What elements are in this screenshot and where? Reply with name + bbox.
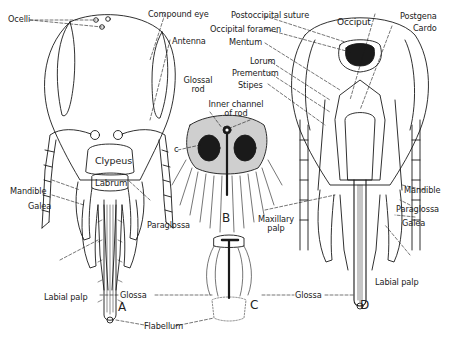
figure-label-c: C (250, 298, 258, 312)
figure-d-head (292, 18, 429, 309)
label-postoccipital-suture: Postoccipital suture (231, 11, 309, 20)
label-inner-channel-of-rod: Inner channel of rod (206, 100, 266, 118)
label-paraglossa-right: Paraglossa (396, 205, 439, 214)
label-galea-right: Galea (402, 219, 425, 228)
figure-a-head (42, 15, 175, 323)
anatomy-diagram: Ocelli Compound eye Antenna Clypeus Labr… (0, 0, 450, 337)
label-postgena: Postgena (400, 12, 437, 21)
label-glossal-rod: Glossal rod (178, 76, 218, 94)
label-labial-palp-left: Labial palp (44, 293, 88, 302)
label-clypeus: Clypeus (95, 156, 132, 165)
label-glossa-left: Glossa (120, 291, 147, 300)
label-mandible-left: Mandible (10, 187, 46, 196)
label-galea-left: Galea (28, 202, 51, 211)
figure-label-a: A (118, 300, 126, 314)
label-paraglossa-left: Paraglossa (147, 221, 190, 230)
label-ocelli: Ocelli (8, 15, 30, 24)
label-stipes: Stipes (238, 81, 263, 90)
label-lorum: Lorum (250, 57, 275, 66)
label-compound-eye: Compound eye (148, 10, 209, 19)
label-prementum: Prementum (232, 69, 279, 78)
label-flabellum: Flabellum (144, 322, 183, 331)
label-c-marker: c (174, 145, 178, 154)
label-antenna: Antenna (172, 37, 206, 46)
figure-c-glossa-tip (207, 235, 252, 321)
label-occipital-foramen: Occipital foramen (210, 25, 281, 34)
label-occiput: Occiput (337, 18, 371, 27)
figure-label-d: D (360, 298, 369, 312)
label-labial-palp-right: Labial palp (375, 278, 419, 287)
label-cardo: Cardo (413, 24, 437, 33)
figure-label-b: B (222, 211, 230, 225)
label-labrum: Labrum (95, 179, 127, 188)
label-mandible-right: Mandible (404, 186, 440, 195)
label-mentum: Mentum (229, 38, 262, 47)
label-glossa-right: Glossa (295, 291, 322, 300)
label-maxillary-palp: Maxillary palp (252, 215, 300, 233)
